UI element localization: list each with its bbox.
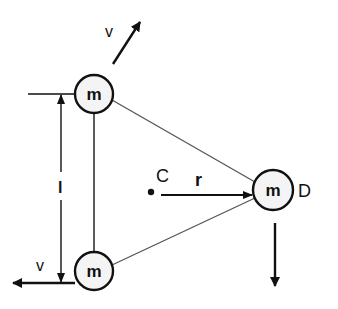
radius-vector: r xyxy=(161,170,252,195)
point-label-d: D xyxy=(298,181,311,201)
triangle-edges xyxy=(94,100,255,265)
mass-right: m D xyxy=(253,170,311,210)
radius-label: r xyxy=(195,170,202,190)
mass-label: m xyxy=(265,181,280,200)
mass-label: m xyxy=(86,262,101,281)
velocity-top: v xyxy=(105,22,140,64)
mass-top: m xyxy=(75,75,113,113)
edge-bottom-right xyxy=(112,198,255,265)
velocity-arrow-top-icon xyxy=(113,22,140,64)
center-of-mass: C xyxy=(148,166,169,195)
mass-bottom: m xyxy=(75,252,113,290)
velocity-label-top: v xyxy=(105,23,113,40)
velocity-label-bottom: v xyxy=(36,257,44,274)
center-dot xyxy=(148,189,154,195)
mass-label: m xyxy=(86,85,101,104)
side-length-label: l xyxy=(58,179,62,196)
diagram-canvas: l v v C r m m m D xyxy=(0,0,338,309)
side-length-dimension: l xyxy=(28,94,75,283)
velocity-bottom: v xyxy=(13,257,75,283)
center-label: C xyxy=(156,166,169,186)
edge-top-right xyxy=(112,100,255,182)
